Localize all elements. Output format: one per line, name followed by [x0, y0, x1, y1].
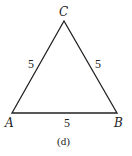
side-length-ab: 5 [64, 116, 70, 130]
vertex-label-a: A [4, 116, 14, 130]
vertex-label-c: C [59, 5, 68, 19]
side-length-cb: 5 [95, 57, 101, 71]
vertex-label-b: B [113, 116, 123, 130]
figure-caption: (d) [57, 135, 70, 148]
equilateral-triangle-diagram: C A B 5 5 5 (d) [0, 0, 132, 156]
side-length-ac: 5 [28, 57, 34, 71]
